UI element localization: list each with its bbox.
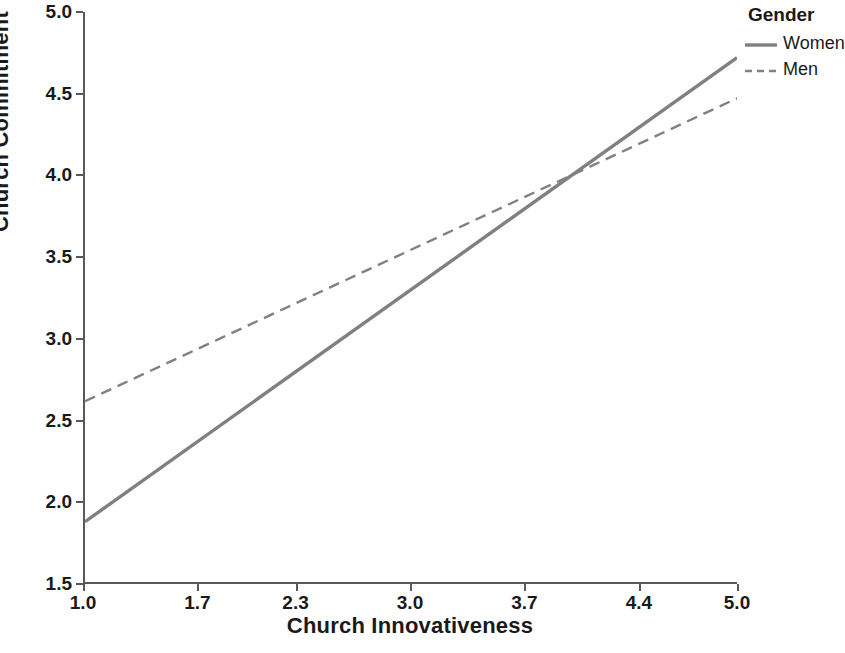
y-tick-label: 4.0 [6,164,72,186]
plot-lines [85,12,737,582]
x-tick-label: 1.7 [152,592,242,614]
y-tick-label: 2.0 [6,491,72,513]
y-tick-mark [76,501,83,503]
legend-label: Women [783,33,845,54]
x-tick-label: 3.0 [365,592,455,614]
y-tick-label: 3.5 [6,246,72,268]
y-tick-mark [76,256,83,258]
y-tick-label: 2.5 [6,410,72,432]
series-line-women [85,58,737,522]
x-axis-title: Church Innovativeness [0,613,820,639]
legend-item-women[interactable]: Women [744,30,840,56]
legend-label: Men [783,59,818,80]
legend-title: Gender [748,4,840,26]
y-axis-tick-labels: 1.52.02.53.03.54.04.55.0 [0,12,72,584]
legend-line-sample-solid [744,37,778,49]
y-tick-mark [76,583,83,585]
legend-line-sample-dashed [744,63,778,75]
series-line-men [85,98,737,401]
x-tick-label: 1.0 [38,592,128,614]
y-tick-mark [76,420,83,422]
y-tick-mark [76,174,83,176]
x-tick-mark [296,584,298,591]
x-tick-mark [197,584,199,591]
y-tick-label: 5.0 [6,1,72,23]
legend-item-men[interactable]: Men [744,56,840,82]
legend-items: WomenMen [744,30,840,82]
x-tick-label: 4.4 [594,592,684,614]
x-tick-mark [639,584,641,591]
plot-area [83,12,737,584]
x-tick-mark [410,584,412,591]
x-tick-label: 2.3 [251,592,341,614]
y-tick-label: 3.0 [6,328,72,350]
legend: Gender WomenMen [744,4,840,82]
y-tick-label: 4.5 [6,83,72,105]
y-tick-mark [76,93,83,95]
y-tick-mark [76,338,83,340]
x-tick-mark [83,584,85,591]
x-tick-mark [524,584,526,591]
y-tick-mark [76,11,83,13]
x-tick-label: 5.0 [692,592,782,614]
x-tick-mark [737,584,739,591]
x-tick-label: 3.7 [479,592,569,614]
